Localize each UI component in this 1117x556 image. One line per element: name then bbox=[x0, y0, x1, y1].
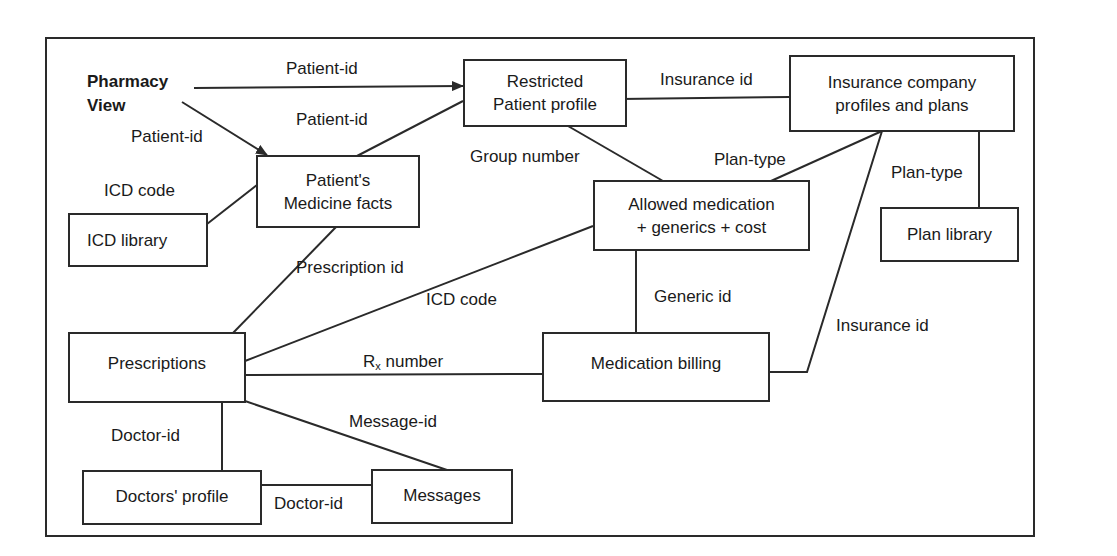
edge-view-to-restricted bbox=[194, 86, 463, 88]
label-prescriptions-to-allowed: ICD code bbox=[426, 290, 497, 310]
label-insurance-to-allowed: Plan-type bbox=[714, 150, 786, 170]
node-medication-billing[interactable]: Medication billing bbox=[542, 332, 770, 402]
node-icd-library[interactable]: ICD library bbox=[68, 213, 208, 267]
label-view-to-restricted: Patient-id bbox=[286, 59, 358, 79]
label-allowed-to-billing: Generic id bbox=[654, 287, 731, 307]
pharmacy-view-title: Pharmacy View bbox=[87, 70, 168, 118]
node-restricted-patient-profile[interactable]: Restricted Patient profile bbox=[463, 59, 627, 127]
rx-main: R bbox=[363, 352, 375, 371]
node-patient-medicine-facts[interactable]: Patient's Medicine facts bbox=[256, 155, 420, 228]
node-allowed-medication[interactable]: Allowed medication + generics + cost bbox=[593, 180, 810, 251]
label-insurance-to-plan-library: Plan-type bbox=[891, 163, 963, 183]
label-prescriptions-to-messages: Message-id bbox=[349, 412, 437, 432]
node-plan-library[interactable]: Plan library bbox=[880, 207, 1019, 262]
label-view-to-facts: Patient-id bbox=[131, 127, 203, 147]
node-insurance-company-profiles[interactable]: Insurance company profiles and plans bbox=[789, 55, 1015, 132]
label-icd-to-facts: ICD code bbox=[104, 181, 175, 201]
label-doctors-to-messages: Doctor-id bbox=[274, 494, 343, 514]
node-doctors-profile[interactable]: Doctors' profile bbox=[82, 470, 262, 525]
label-restricted-to-insurance: Insurance id bbox=[660, 70, 753, 90]
label-facts-to-restricted: Patient-id bbox=[296, 110, 368, 130]
edge-facts-to-restricted bbox=[357, 101, 463, 156]
label-prescriptions-to-billing: Rx number bbox=[363, 352, 443, 376]
label-facts-to-prescriptions: Prescription id bbox=[296, 258, 404, 278]
pharmacy-view-diagram: Pharmacy View Restricted Patient profile… bbox=[0, 0, 1117, 556]
node-prescriptions[interactable]: Prescriptions bbox=[68, 332, 246, 403]
edge-insurance-to-allowed bbox=[771, 131, 882, 181]
label-insurance-to-billing: Insurance id bbox=[836, 316, 929, 336]
edge-restricted-to-insurance bbox=[620, 97, 790, 99]
edge-prescriptions-to-allowed bbox=[245, 226, 593, 361]
edge-facts-to-prescriptions bbox=[233, 227, 336, 333]
node-messages[interactable]: Messages bbox=[371, 469, 513, 524]
rx-tail: number bbox=[381, 352, 443, 371]
label-restricted-to-allowed: Group number bbox=[470, 147, 580, 167]
edge-icd-to-facts bbox=[207, 185, 257, 224]
label-prescriptions-to-doctors: Doctor-id bbox=[111, 426, 180, 446]
edge-restricted-to-allowed bbox=[568, 126, 663, 181]
